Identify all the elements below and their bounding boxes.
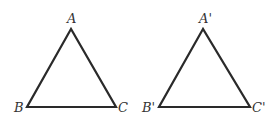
vertex-label-a-prime: A' — [198, 11, 212, 26]
vertex-label-c: C — [118, 100, 128, 115]
vertex-label-c-prime: C' — [252, 100, 266, 115]
vertex-label-a: A — [66, 11, 76, 26]
vertex-label-b: B — [13, 100, 24, 115]
triangle-abc-shape — [27, 29, 116, 107]
triangle-a-prime-b-prime-c-prime: A' B' C' — [141, 11, 266, 115]
vertex-label-b-prime: B' — [141, 100, 155, 115]
diagram-canvas: A B C A' B' C' — [0, 0, 280, 119]
triangle-abc: A B C — [13, 11, 128, 115]
triangle-a-prime-b-prime-c-prime-shape — [159, 29, 250, 107]
